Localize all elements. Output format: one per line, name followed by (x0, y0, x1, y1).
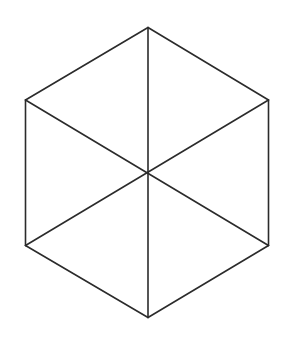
hexagon-diagram (0, 0, 290, 337)
diagram-background (0, 0, 290, 337)
